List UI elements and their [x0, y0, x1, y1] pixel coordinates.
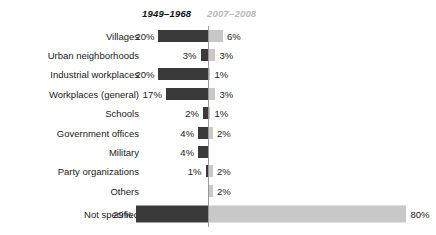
center-axis-line [208, 65, 209, 84]
center-axis-line [208, 162, 209, 181]
value-label-recent: 1% [214, 108, 228, 119]
center-axis-line [208, 201, 209, 227]
bar-past [158, 30, 208, 42]
bar-past [198, 146, 208, 158]
chart-row: Villages20%6% [0, 26, 436, 45]
center-axis-line [208, 104, 209, 123]
chart-legend: 1949–1968 2007–2008 [0, 8, 436, 22]
bar-past [201, 49, 208, 61]
bar-past [198, 127, 208, 139]
bar-track: 4% [0, 142, 436, 161]
bar-track: 4%2% [0, 123, 436, 142]
center-axis-line [208, 84, 209, 103]
bar-track: 17%3% [0, 84, 436, 103]
bar-past [158, 68, 208, 80]
chart-row: Industrial workplaces20%1% [0, 65, 436, 84]
bar-track: 1%2% [0, 162, 436, 181]
bar-recent [208, 30, 223, 42]
value-label-recent: 1% [214, 69, 228, 80]
chart-row: Others2% [0, 181, 436, 200]
chart-row: Workplaces (general)17%3% [0, 84, 436, 103]
value-label-past: 29% [113, 208, 132, 219]
bar-track: 2%1% [0, 104, 436, 123]
value-label-past: 4% [180, 147, 194, 158]
bar-track: 20%6% [0, 26, 436, 45]
value-label-past: 4% [180, 127, 194, 138]
value-label-past: 20% [135, 30, 154, 41]
value-label-recent: 80% [410, 208, 429, 219]
chart-row: Party organizations1%2% [0, 162, 436, 181]
chart-row: Urban neighborhoods3%3% [0, 45, 436, 64]
bar-recent [208, 205, 406, 222]
value-label-recent: 2% [217, 185, 231, 196]
center-axis-line [208, 45, 209, 64]
value-label-recent: 2% [217, 127, 231, 138]
center-axis-line [208, 142, 209, 161]
value-label-recent: 2% [217, 166, 231, 177]
value-label-recent: 3% [219, 88, 233, 99]
bar-recent [208, 88, 215, 100]
bar-track: 29%80% [0, 201, 436, 227]
diverging-bar-chart: 1949–1968 2007–2008 Villages20%6%Urban n… [0, 0, 436, 235]
bar-track: 20%1% [0, 65, 436, 84]
legend-entry-recent: 2007–2008 [207, 8, 256, 19]
value-label-past: 17% [143, 88, 162, 99]
bar-track: 3%3% [0, 45, 436, 64]
value-label-recent: 3% [219, 50, 233, 61]
value-label-past: 20% [135, 69, 154, 80]
value-label-recent: 6% [227, 30, 241, 41]
legend-entry-past: 1949–1968 [142, 8, 191, 19]
bar-recent [208, 49, 215, 61]
chart-row: Not specified29%80% [0, 201, 436, 227]
chart-row: Schools2%1% [0, 104, 436, 123]
value-label-past: 1% [188, 166, 202, 177]
bar-past [136, 205, 208, 222]
bar-past [166, 88, 208, 100]
center-axis-line [208, 123, 209, 142]
chart-row: Government offices4%2% [0, 123, 436, 142]
center-axis-line [208, 181, 209, 200]
chart-rows: Villages20%6%Urban neighborhoods3%3%Indu… [0, 26, 436, 227]
value-label-past: 3% [183, 50, 197, 61]
value-label-past: 2% [185, 108, 199, 119]
chart-row: Military4% [0, 142, 436, 161]
bar-track: 2% [0, 181, 436, 200]
center-axis-line [208, 26, 209, 45]
